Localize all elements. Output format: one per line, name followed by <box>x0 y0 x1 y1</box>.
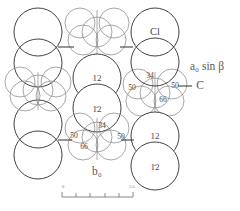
axis-label-a0-sin-beta: a₀ sin β <box>190 60 224 73</box>
height-label-50-left: 50 <box>128 83 136 92</box>
axis-label-b0: b₀ <box>92 165 102 177</box>
scale-label-right: 5A <box>129 184 136 189</box>
carbon-cluster-left-middle <box>5 67 71 111</box>
small-sphere <box>68 25 98 55</box>
height-label-50-right: 50 <box>117 132 125 141</box>
carbon-cluster-top-center <box>65 8 129 55</box>
crystal-packing-figure: Cl C 12 1̄2 12 1̄2 34 50 50 66 34 50 50 … <box>0 0 240 211</box>
scale-bar: 0 5A <box>62 184 136 197</box>
height-label-34: 34 <box>98 121 106 130</box>
height-label-center-bar12: 1̄2 <box>93 104 102 114</box>
height-label-50-left: 50 <box>70 131 78 140</box>
carbon-atom-label: C <box>196 79 204 91</box>
large-sphere-left-1 <box>14 8 62 56</box>
carbon-cluster-right-middle <box>123 69 187 116</box>
height-label-50-right: 50 <box>171 81 179 90</box>
height-label-right-bar12: 1̄2 <box>151 162 160 172</box>
height-label-right-12: 12 <box>151 131 160 141</box>
height-label-66: 66 <box>80 142 88 151</box>
chlorine-atom-label: Cl <box>150 26 160 37</box>
scale-label-left: 0 <box>62 184 65 189</box>
height-label-34: 34 <box>146 71 154 80</box>
packing-diagram-svg: Cl C 12 1̄2 12 1̄2 34 50 50 66 34 50 50 … <box>0 0 240 211</box>
large-sphere-left-4 <box>14 131 62 179</box>
height-label-center-12: 12 <box>93 73 102 83</box>
height-label-66: 66 <box>159 95 167 104</box>
small-sphere <box>96 25 126 55</box>
